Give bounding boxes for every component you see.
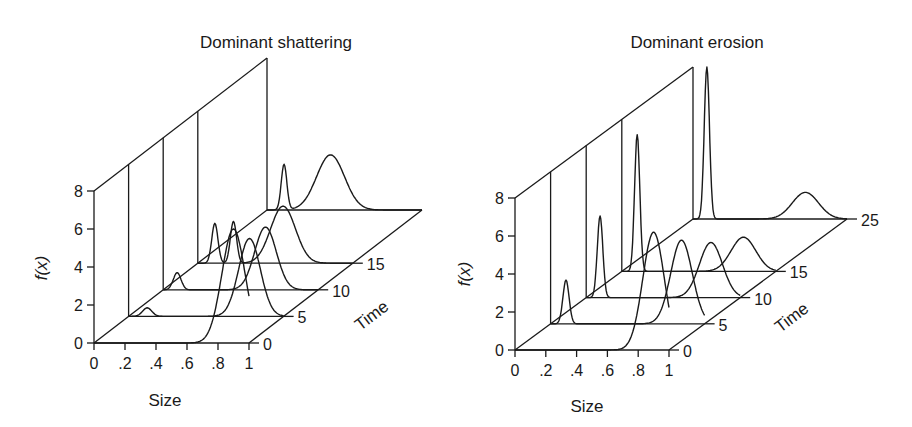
chart-title: Dominant erosion (630, 33, 763, 52)
time-tick-label: 15 (367, 256, 385, 273)
y-tick-label: 2 (495, 304, 504, 321)
x-tick-label: 0 (511, 362, 520, 379)
x-tick-label: .2 (118, 355, 131, 372)
panel-dominant-erosion: Dominant erosion Size f(x) Time 024680.2… (455, 33, 879, 416)
back-wall-top-edge (94, 58, 267, 191)
y-tick-label: 2 (74, 297, 83, 314)
x-axis-label: Size (148, 391, 181, 410)
x-tick-label: .6 (601, 362, 614, 379)
time-tick-label: 5 (298, 309, 307, 326)
distribution-curve-t15 (198, 206, 353, 263)
time-tick-label: 25 (861, 212, 879, 229)
time-tick-label: 10 (754, 291, 772, 308)
chart-title: Dominant shattering (200, 33, 352, 52)
y-tick-label: 0 (74, 335, 83, 352)
distribution-curve-t5 (129, 239, 284, 317)
x-tick-label: .6 (180, 355, 193, 372)
y-axis-label: f(x) (32, 256, 51, 281)
x-tick-label: 0 (90, 355, 99, 372)
x-tick-label: .8 (632, 362, 645, 379)
panel-dominant-shattering: Dominant shattering Size f(x) Time 02468… (32, 33, 422, 410)
x-tick-label: .4 (149, 355, 162, 372)
y-tick-label: 8 (495, 190, 504, 207)
waterfall-plots: Dominant shattering Size f(x) Time 02468… (0, 0, 912, 427)
time-axis-label: Time (351, 297, 392, 335)
time-axis-label: Time (771, 299, 812, 337)
y-tick-label: 8 (74, 183, 83, 200)
y-tick-label: 4 (495, 266, 504, 283)
distribution-curve-t10 (586, 216, 740, 298)
time-tick-label: 0 (263, 336, 272, 353)
y-tick-label: 6 (74, 221, 83, 238)
time-tick-label: 15 (790, 264, 808, 281)
distribution-curve-t25 (267, 155, 422, 210)
time-tick-label: 0 (683, 343, 692, 360)
time-tick-label: 5 (719, 317, 728, 334)
plot-geometry: 024680.2.4.6.8105101525 (495, 67, 879, 379)
y-tick-label: 0 (495, 342, 504, 359)
distribution-curve-t15 (622, 135, 776, 272)
y-axis-label: f(x) (455, 262, 474, 287)
time-axis-line (249, 210, 422, 343)
y-tick-label: 4 (74, 259, 83, 276)
x-tick-label: 1 (245, 355, 254, 372)
distribution-curve-t25 (693, 67, 847, 219)
y-tick-label: 6 (495, 228, 504, 245)
x-axis-label: Size (570, 397, 603, 416)
distribution-curve-t5 (551, 240, 705, 324)
x-tick-label: .4 (570, 362, 583, 379)
figure: Dominant shattering Size f(x) Time 02468… (0, 0, 912, 427)
time-axis-line (669, 219, 847, 350)
floor-left-edge (515, 219, 693, 350)
back-wall-top-edge (515, 67, 693, 198)
time-tick-label: 10 (332, 283, 350, 300)
x-tick-label: 1 (665, 362, 674, 379)
x-tick-label: .2 (539, 362, 552, 379)
x-tick-label: .8 (211, 355, 224, 372)
